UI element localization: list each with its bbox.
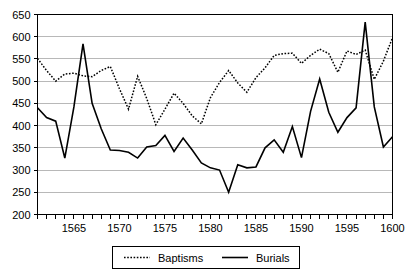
y-tick-label-350: 350: [12, 142, 30, 154]
axes-group: [38, 15, 393, 215]
plot-frame: [38, 15, 393, 215]
x-tick-label-1570: 1570: [107, 222, 131, 234]
x-tick-label-1590: 1590: [289, 222, 313, 234]
x-tick-label-1565: 1565: [62, 222, 86, 234]
y-axis-tick-labels: 200250300350400450500550600650: [12, 9, 30, 221]
gridlines-group: [38, 15, 393, 193]
x-tick-label-1595: 1595: [335, 222, 359, 234]
x-tick-label-1585: 1585: [244, 222, 268, 234]
x-axis-tick-labels: 15651570157515801585159015951600: [62, 222, 405, 234]
series-line-burials: [38, 22, 393, 192]
y-tick-label-650: 650: [12, 9, 30, 21]
y-tick-label-200: 200: [12, 209, 30, 221]
chart-container: 200250300350400450500550600650 156515701…: [0, 0, 407, 277]
data-series-group: [38, 22, 393, 192]
x-tick-label-1600: 1600: [380, 222, 404, 234]
baptisms-burials-line-chart: 200250300350400450500550600650 156515701…: [0, 0, 407, 277]
legend-label-burials: Burials: [256, 252, 290, 264]
y-tick-marks-group: [34, 15, 38, 215]
y-tick-label-300: 300: [12, 164, 30, 176]
y-tick-label-500: 500: [12, 75, 30, 87]
y-tick-label-600: 600: [12, 31, 30, 43]
x-tick-marks-group: [38, 215, 393, 219]
y-tick-label-550: 550: [12, 53, 30, 65]
y-tick-label-250: 250: [12, 186, 30, 198]
x-tick-label-1580: 1580: [198, 222, 222, 234]
y-tick-label-450: 450: [12, 97, 30, 109]
y-tick-label-400: 400: [12, 120, 30, 132]
chart-legend: BaptismsBurials: [113, 247, 300, 269]
legend-label-baptisms: Baptisms: [158, 252, 204, 264]
x-tick-label-1575: 1575: [153, 222, 177, 234]
